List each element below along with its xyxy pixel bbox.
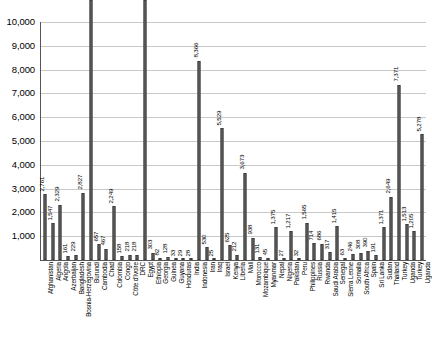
bar[interactable]	[43, 194, 46, 260]
bar[interactable]	[90, 0, 93, 260]
x-tick-label: Rwanda	[325, 262, 332, 285]
bar[interactable]	[282, 258, 285, 260]
y-tick-label: 6,000	[12, 112, 35, 122]
bar[interactable]	[328, 252, 331, 260]
bar[interactable]	[297, 258, 300, 260]
bar-value-label: 2,329	[54, 187, 61, 202]
bar-group[interactable]: 128	[164, 0, 172, 260]
bar-group[interactable]: 1,547	[49, 0, 57, 260]
bar-group[interactable]: 1,565	[303, 0, 311, 260]
bar[interactable]	[167, 257, 170, 260]
bar-group[interactable]: 161	[64, 0, 72, 260]
bar-group[interactable]: 530	[203, 0, 211, 260]
bar[interactable]	[259, 257, 262, 260]
bar-group[interactable]: 10,909	[141, 0, 149, 260]
bar-group[interactable]: 1,375	[272, 0, 280, 260]
bar-group[interactable]: 158	[118, 0, 126, 260]
bar[interactable]	[97, 244, 100, 260]
bar-group[interactable]: 714	[311, 0, 319, 260]
bar-group[interactable]: 2,761	[41, 0, 49, 260]
bar-group[interactable]: 2,249	[110, 0, 118, 260]
bar[interactable]	[351, 254, 354, 260]
bar-group[interactable]: 390	[364, 0, 372, 260]
bar[interactable]	[344, 258, 347, 260]
bar[interactable]	[374, 255, 377, 260]
bar-group[interactable]: 2,827	[80, 0, 88, 260]
bar[interactable]	[136, 255, 139, 260]
bar[interactable]	[66, 256, 69, 260]
x-tick-label: Turkey	[402, 262, 409, 280]
x-axis-category-labels: AfghanistanAlgeriaAngolaAzerbaijanBangla…	[41, 262, 426, 348]
bar[interactable]	[413, 231, 416, 260]
bar[interactable]	[244, 173, 247, 260]
bar-group[interactable]: 229	[72, 0, 80, 260]
bar[interactable]	[382, 227, 385, 260]
bar-group[interactable]: 308	[357, 0, 365, 260]
bar-value-label: 158	[115, 243, 122, 253]
bar[interactable]	[197, 61, 200, 260]
bar[interactable]	[105, 249, 108, 260]
bar[interactable]	[128, 255, 131, 260]
bar-group[interactable]: 938	[249, 0, 257, 260]
x-tick-label: Russia	[317, 262, 324, 281]
bar-group[interactable]: 467	[103, 0, 111, 260]
bar-group[interactable]: 82	[157, 0, 165, 260]
bar-group[interactable]: 33	[172, 0, 180, 260]
bar[interactable]	[421, 134, 424, 260]
bar[interactable]	[74, 255, 77, 260]
bar-group[interactable]: 5,529	[218, 0, 226, 260]
bar[interactable]	[143, 0, 146, 260]
bar-group[interactable]: 218	[126, 0, 134, 260]
bar[interactable]	[120, 256, 123, 260]
bar-group[interactable]: 218	[133, 0, 141, 260]
bar-group[interactable]: 686	[318, 0, 326, 260]
bar[interactable]	[236, 255, 239, 260]
bar[interactable]	[190, 258, 193, 260]
bar[interactable]	[51, 223, 54, 260]
bar-group[interactable]: 29	[180, 0, 188, 260]
bar[interactable]	[267, 258, 270, 260]
bar-group[interactable]: 246	[349, 0, 357, 260]
bar-group[interactable]: 1,371	[380, 0, 388, 260]
bar[interactable]	[159, 258, 162, 260]
bar[interactable]	[359, 253, 362, 260]
bar-group[interactable]: 28	[187, 0, 195, 260]
bar-group[interactable]: 5,278	[418, 0, 426, 260]
bar-value-label: 1,205	[408, 214, 415, 229]
x-tick-label: Colombia	[117, 262, 124, 288]
bar-group[interactable]: 625	[226, 0, 234, 260]
bar-group[interactable]: 131	[257, 0, 265, 260]
x-tick-label: Israel	[225, 262, 232, 277]
bar-value-label: 317	[323, 240, 330, 250]
bar-group[interactable]: 32	[295, 0, 303, 260]
bar-group[interactable]: 25	[210, 0, 218, 260]
x-tick-label: Iraq	[217, 262, 224, 272]
bar[interactable]	[174, 258, 177, 260]
bar[interactable]	[405, 224, 408, 260]
bar-group[interactable]: 2,329	[56, 0, 64, 260]
bar[interactable]	[390, 197, 393, 260]
bar-group[interactable]: 212	[234, 0, 242, 260]
bar-group[interactable]: 3,673	[241, 0, 249, 260]
bar-value-label: 530	[200, 235, 207, 245]
x-tick-label: Egypt	[148, 262, 155, 278]
bar[interactable]	[313, 243, 316, 260]
bar-group[interactable]: 8,366	[195, 0, 203, 260]
x-tick-label: Liberia	[240, 262, 247, 280]
bar-group[interactable]: 12,623	[87, 0, 95, 260]
bar[interactable]	[213, 258, 216, 260]
x-tick-label: Pakistan	[294, 262, 301, 285]
bar-value-label: 212	[231, 242, 238, 252]
bar-group[interactable]: 303	[149, 0, 157, 260]
y-tick-label: 10,000	[7, 17, 35, 27]
bar[interactable]	[398, 85, 401, 260]
bar-group[interactable]: 657	[95, 0, 103, 260]
bar-group[interactable]: 2,649	[388, 0, 396, 260]
bar-group[interactable]: 1,217	[287, 0, 295, 260]
bar[interactable]	[305, 223, 308, 260]
bar-group[interactable]: 1,415	[334, 0, 342, 260]
bar[interactable]	[82, 193, 85, 260]
bar[interactable]	[182, 258, 185, 260]
bar-group[interactable]: 63	[341, 0, 349, 260]
x-tick-label: Guinea	[171, 262, 178, 282]
